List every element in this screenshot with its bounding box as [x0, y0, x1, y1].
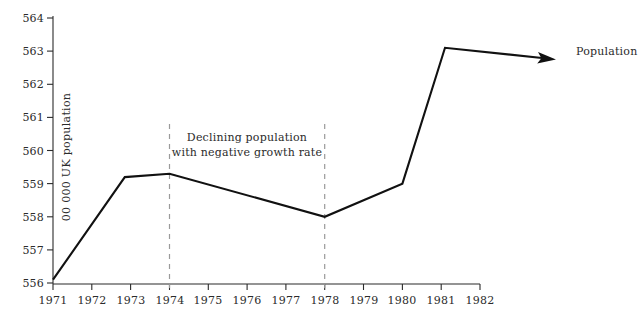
y-tick-label-561: 561: [18, 111, 44, 124]
x-tick-label-1972: 1972: [78, 294, 107, 307]
x-tick-label-1971: 1971: [39, 294, 68, 307]
x-tick-label-1976: 1976: [233, 294, 262, 307]
x-tick-label-1982: 1982: [466, 294, 495, 307]
population-series-line: [53, 48, 542, 280]
x-tick-label-1978: 1978: [311, 294, 340, 307]
y-tick-label-558: 558: [18, 211, 44, 224]
annotation-line-2: with negative growth rate: [172, 145, 322, 160]
x-tick-label-1981: 1981: [427, 294, 456, 307]
y-tick-label-559: 559: [18, 178, 44, 191]
y-axis-ticks: [47, 18, 53, 283]
population-series-label: Population: [576, 45, 637, 58]
x-tick-label-1977: 1977: [272, 294, 301, 307]
y-tick-label-556: 556: [18, 277, 44, 290]
y-tick-label-564: 564: [18, 12, 44, 25]
y-tick-label-562: 562: [18, 78, 44, 91]
annotation-line-1: Declining population: [172, 130, 322, 145]
x-tick-label-1974: 1974: [156, 294, 185, 307]
y-tick-label-557: 557: [18, 244, 44, 257]
x-tick-label-1973: 1973: [117, 294, 146, 307]
x-tick-label-1975: 1975: [194, 294, 223, 307]
y-tick-label-560: 560: [18, 145, 44, 158]
x-axis-ticks: [53, 284, 480, 290]
x-tick-label-1980: 1980: [388, 294, 417, 307]
y-tick-label-563: 563: [18, 45, 44, 58]
population-line-chart: 00 000 UK population 564 563 562 561 560…: [0, 0, 641, 313]
declining-population-annotation: Declining population with negative growt…: [172, 130, 322, 160]
y-axis-title: 00 000 UK population: [60, 92, 73, 220]
x-tick-label-1979: 1979: [350, 294, 379, 307]
